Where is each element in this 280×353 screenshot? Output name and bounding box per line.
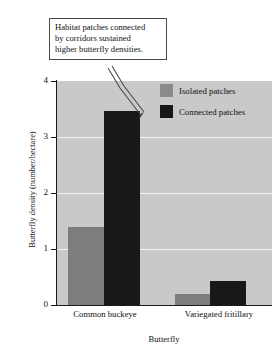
bar-common-buckeye-connected <box>104 111 140 305</box>
x-label-variegated-fritillary: Variegated fritillary <box>160 309 278 319</box>
legend-label-connected: Connected patches <box>179 107 245 117</box>
legend-item-connected: Connected patches <box>160 105 245 118</box>
gridline-2 <box>57 193 272 194</box>
x-axis-title: Butterfly <box>48 334 280 344</box>
bar-common-buckeye-isolated <box>68 227 104 305</box>
legend: Isolated patches Connected patches <box>160 84 245 126</box>
callout-annotation: Habitat patches connected by corridors s… <box>49 18 167 60</box>
y-tick-mark-2 <box>51 193 57 194</box>
legend-swatch-connected-icon <box>160 105 173 118</box>
x-axis-line <box>56 305 272 306</box>
y-tick-label-1: 1 <box>34 244 48 253</box>
legend-item-isolated: Isolated patches <box>160 84 245 97</box>
y-tick-mark-0 <box>51 305 57 306</box>
gridline-3 <box>57 137 272 138</box>
callout-line-3: higher butterfly densities. <box>55 44 162 55</box>
butterfly-density-bar-chart: Habitat patches connected by corridors s… <box>0 0 280 353</box>
legend-label-isolated: Isolated patches <box>179 86 235 96</box>
y-tick-label-4: 4 <box>34 76 48 85</box>
x-label-common-buckeye: Common buckeye <box>50 309 160 319</box>
callout-line-2: by corridors sustained <box>55 33 162 44</box>
y-tick-mark-3 <box>51 137 57 138</box>
legend-swatch-isolated-icon <box>160 84 173 97</box>
callout-line-1: Habitat patches connected <box>55 22 162 33</box>
y-tick-label-2: 2 <box>34 188 48 197</box>
bar-variegated-fritillary-connected <box>210 281 246 305</box>
y-tick-label-3: 3 <box>34 132 48 141</box>
y-tick-label-0: 0 <box>34 300 48 309</box>
y-tick-mark-1 <box>51 249 57 250</box>
y-tick-mark-4 <box>51 81 57 82</box>
plot-area: Isolated patches Connected patches <box>57 81 272 305</box>
bar-variegated-fritillary-isolated <box>175 294 210 305</box>
